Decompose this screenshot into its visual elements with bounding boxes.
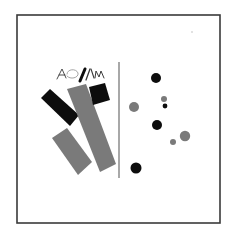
circle-dot — [170, 139, 176, 145]
artwork-canvas: AO//\m — [0, 0, 230, 236]
abstract-artwork: AO//\m — [0, 0, 230, 236]
speck-dot — [191, 31, 193, 33]
circle-dot — [161, 96, 167, 102]
circle-dot — [163, 104, 168, 109]
artwork-background — [0, 0, 230, 236]
circle-dot — [131, 163, 142, 174]
circle-dot — [152, 120, 162, 130]
circle-dot — [180, 131, 190, 141]
circle-dot — [129, 102, 139, 112]
circle-dot — [151, 73, 161, 83]
